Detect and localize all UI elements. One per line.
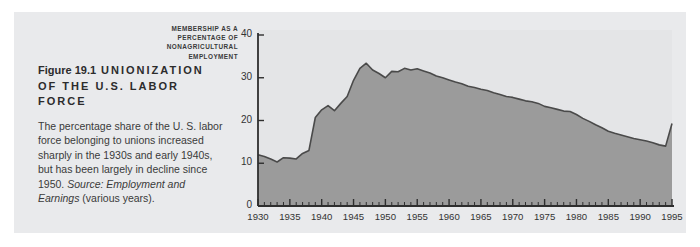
chart: MEMBERSHIP AS APERCENTAGE OFNONAGRICULTU… bbox=[0, 0, 700, 247]
plot-svg bbox=[0, 0, 700, 247]
figure-container: Figure 19.1UNIONIZATION OF THE U.S. LABO… bbox=[0, 0, 700, 247]
